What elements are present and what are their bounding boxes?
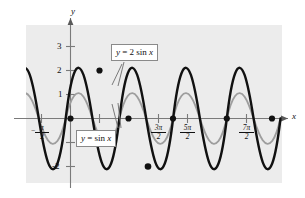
- fraction-denominator: 2: [151, 132, 166, 141]
- callout-equals: =: [120, 47, 130, 57]
- plot-svg: [0, 0, 305, 198]
- point-3pi: [224, 115, 230, 121]
- y-tick-label-1: 1: [58, 90, 63, 99]
- x-tick-label-5pi-over-2: 5π 2: [180, 124, 195, 141]
- fraction-numerator: 5π: [180, 124, 195, 132]
- callout-rhs: 2 sin: [130, 47, 147, 57]
- callout-variable: x: [149, 47, 153, 57]
- fraction-numerator: 3π: [151, 124, 166, 132]
- point-peak-pi-over-2: [96, 67, 102, 73]
- y-axis-label: y: [71, 7, 75, 16]
- point-origin: [67, 115, 73, 121]
- fraction-numerator: 7π: [239, 124, 254, 132]
- y-tick-label-neg2: -2: [52, 162, 60, 171]
- callout-sin-x: y = sin x: [76, 130, 116, 147]
- point-min-3pi-over-2: [145, 163, 152, 170]
- point-pi: [125, 115, 131, 121]
- fraction-denominator: 2: [239, 132, 254, 141]
- fraction-numerator: π: [35, 124, 49, 132]
- point-4pi: [269, 115, 275, 121]
- fraction-denominator: 2: [180, 132, 195, 141]
- fraction-denominator: 2: [35, 132, 49, 141]
- x-axis-label: x: [292, 112, 296, 121]
- leader-line-2sinx: [112, 62, 124, 86]
- minus-sign: −: [31, 127, 35, 135]
- callout-2-sin-x: y = 2 sin x: [111, 44, 158, 61]
- y-tick-label-3: 3: [57, 42, 62, 51]
- callout-equals: =: [85, 133, 95, 143]
- x-tick-label-7pi-over-2: 7π 2: [239, 124, 254, 141]
- point-2pi: [170, 115, 176, 121]
- figure-trig-graph: y x 3 2 1 -2 − π 2 3π 2 5π 2 7π 2 y = 2 …: [0, 0, 305, 198]
- callout-variable: x: [107, 133, 111, 143]
- y-tick-label-2: 2: [57, 66, 62, 75]
- x-tick-label-3pi-over-2: 3π 2: [151, 124, 166, 141]
- x-tick-label-neg-pi-over-2: − π 2: [35, 124, 49, 141]
- callout-rhs: sin: [95, 133, 106, 143]
